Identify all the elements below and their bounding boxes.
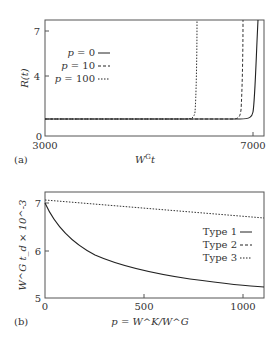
y-tick-label: 7 (34, 26, 40, 37)
y-axis-label: W^G t_d × 10^-3 (17, 200, 29, 291)
panel-b: 7 6 5 0 500 1000 W^G t_d × 10^-3 p = W^K… (14, 192, 264, 327)
y-tick-label: 7 (35, 198, 41, 209)
x-tick-label: 1000 (230, 301, 255, 312)
legend-a: p = 0 p = 10 p = 100 (55, 47, 110, 84)
x-tick-label: 7000 (240, 140, 265, 151)
series-type3 (45, 200, 264, 218)
figure: 7 4 0 3000 7000 R(t) WGt (a) p = 0 p = 1… (0, 0, 280, 338)
x-tick-label: 0 (42, 301, 48, 312)
x-tick-label: 500 (134, 301, 153, 312)
x-tick-label: 3000 (32, 140, 57, 151)
legend-label: Type 2 (203, 239, 237, 250)
panel-a: 7 4 0 3000 7000 R(t) WGt (a) p = 0 p = 1… (14, 20, 266, 165)
x-axis-label: WGt (135, 153, 156, 165)
legend-label: Type 3 (203, 252, 237, 263)
legend-label: p = 10 (61, 60, 95, 71)
legend-label: p = 100 (55, 73, 95, 84)
panel-label: (b) (14, 316, 28, 327)
y-axis-label: R(t) (19, 68, 30, 88)
y-tick-label: 6 (35, 246, 41, 257)
legend-b: Type 1 Type 2 Type 3 (203, 226, 252, 263)
legend-label: p = 0 (67, 47, 95, 58)
legend-label: Type 1 (203, 226, 237, 237)
y-tick-label: 4 (34, 71, 40, 82)
x-axis-label: p = W^K/W^G (111, 316, 188, 327)
y-tick-label: 5 (35, 293, 41, 304)
panel-label: (a) (14, 154, 28, 165)
